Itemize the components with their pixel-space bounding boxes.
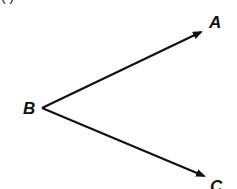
ray-ba: [42, 32, 201, 108]
point-label-c: C: [210, 178, 222, 189]
cropped-caption-fragment: ( ): [1, 0, 14, 3]
point-label-a: A: [209, 14, 221, 31]
ray-bc: [42, 108, 204, 176]
angle-diagram: ( ) A B C: [0, 0, 237, 189]
angle-drawing: [0, 0, 237, 189]
point-label-b: B: [23, 100, 35, 117]
